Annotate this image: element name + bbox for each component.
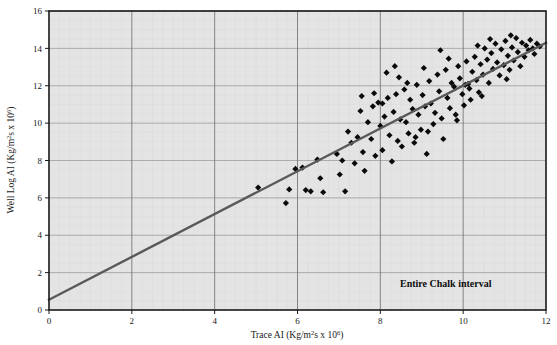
x-tick-label: 12 <box>542 316 551 326</box>
y-tick-label: 8 <box>38 156 43 166</box>
scatter-plot-figure: 024681012 0246810121416 Trace AI (Kg/m2s… <box>0 0 557 345</box>
y-tick-label: 4 <box>38 230 43 240</box>
x-tick-label: 2 <box>130 316 135 326</box>
y-axis-title: Well Log AI (Kg/m2s x 106) <box>5 107 17 214</box>
plot-area <box>49 11 546 310</box>
y-tick-label: 0 <box>38 305 43 315</box>
chart-canvas: 024681012 0246810121416 Trace AI (Kg/m2s… <box>0 0 557 345</box>
y-tick-label: 6 <box>38 193 43 203</box>
y-tick-label: 14 <box>33 44 43 54</box>
y-tick-label: 16 <box>33 6 43 16</box>
x-tick-label: 10 <box>459 316 469 326</box>
y-tick-label: 12 <box>33 81 42 91</box>
x-axis-title: Trace AI (Kg/m2s x 106) <box>251 329 344 341</box>
chart-annotation: Entire Chalk interval <box>400 278 492 289</box>
x-tick-label: 4 <box>212 316 217 326</box>
svg-text:Well Log AI (Kg/m2s x 106): Well Log AI (Kg/m2s x 106) <box>5 107 17 214</box>
x-tick-label: 0 <box>47 316 52 326</box>
y-tick-label: 2 <box>38 268 43 278</box>
svg-text:Trace AI (Kg/m2s x 106): Trace AI (Kg/m2s x 106) <box>251 329 344 341</box>
x-tick-label: 6 <box>295 316 300 326</box>
x-tick-label: 8 <box>378 316 383 326</box>
y-tick-label: 10 <box>33 118 43 128</box>
